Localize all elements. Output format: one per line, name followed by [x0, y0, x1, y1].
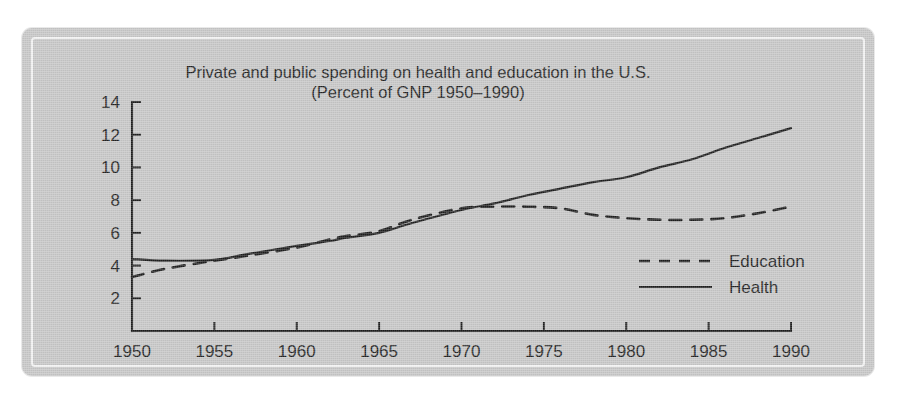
y-axis-tick-label: 12	[101, 126, 120, 145]
x-axis-ticks	[132, 322, 791, 331]
chart-title: Private and public spending on health an…	[185, 63, 650, 81]
legend-label-health: Health	[729, 278, 778, 297]
y-axis-tick-labels: 2468101214	[101, 93, 120, 308]
x-axis-tick-label: 1965	[360, 342, 398, 361]
series-line-health	[132, 128, 791, 261]
y-axis-tick-label: 10	[101, 158, 120, 177]
y-axis-tick-label: 14	[101, 93, 120, 112]
x-axis-tick-label: 1970	[443, 342, 481, 361]
y-axis-tick-label: 8	[111, 191, 120, 210]
figure-root: Private and public spending on health an…	[0, 0, 897, 404]
y-axis-tick-label: 2	[111, 289, 120, 308]
chart-subtitle: (Percent of GNP 1950–1990)	[311, 83, 524, 101]
x-axis-tick-label: 1960	[278, 342, 316, 361]
y-axis-tick-label: 4	[111, 257, 120, 276]
line-chart: Private and public spending on health an…	[22, 28, 874, 376]
chart-legend: Education Health	[639, 252, 805, 297]
legend-label-education: Education	[729, 252, 805, 271]
y-axis-ticks	[132, 102, 141, 298]
x-axis-tick-label: 1990	[772, 342, 810, 361]
y-axis-tick-label: 6	[111, 224, 120, 243]
x-axis-tick-label: 1985	[690, 342, 728, 361]
chart-plate: Private and public spending on health an…	[22, 28, 874, 376]
x-axis-tick-label: 1980	[607, 342, 645, 361]
series-line-education	[132, 206, 791, 277]
x-axis-tick-labels: 195019551960196519701975198019851990	[113, 342, 810, 361]
x-axis-tick-label: 1950	[113, 342, 151, 361]
x-axis-tick-label: 1975	[525, 342, 563, 361]
x-axis-tick-label: 1955	[195, 342, 233, 361]
